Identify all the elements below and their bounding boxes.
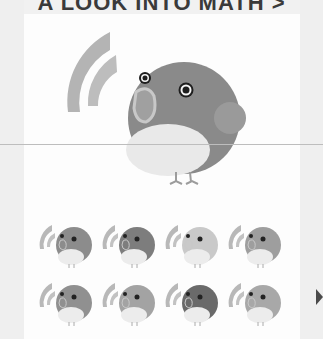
bird-variant-5[interactable]	[36, 273, 94, 329]
bird-icon	[225, 273, 283, 329]
divider-line	[0, 144, 323, 145]
bird-with-signal-waves-icon	[0, 0, 323, 200]
bird-icon	[99, 215, 157, 271]
bird-icon	[162, 215, 220, 271]
bird-variant-3[interactable]	[162, 215, 220, 271]
bird-icon	[162, 273, 220, 329]
bird-icon	[99, 273, 157, 329]
bird-variant-2[interactable]	[99, 215, 157, 271]
bird-variant-6[interactable]	[99, 273, 157, 329]
bird-icon	[36, 273, 94, 329]
bird-variant-1[interactable]	[36, 215, 94, 271]
bird-variant-4[interactable]	[225, 215, 283, 271]
chevron-right-icon[interactable]	[316, 289, 323, 305]
bird-icon	[225, 215, 283, 271]
bird-icon	[36, 215, 94, 271]
bird-variant-7[interactable]	[162, 273, 220, 329]
bird-variant-8[interactable]	[225, 273, 283, 329]
